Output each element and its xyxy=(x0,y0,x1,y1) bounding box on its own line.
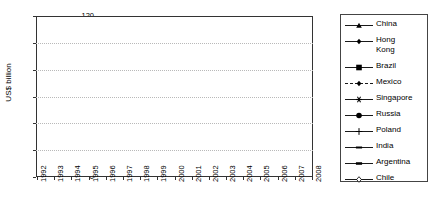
legend-marker-circle-icon xyxy=(344,110,374,121)
x-tick-label: 1994 xyxy=(74,165,82,182)
y-axis-title: US$ billion xyxy=(4,33,13,133)
marker-square xyxy=(356,65,362,71)
legend-marker-square-icon xyxy=(344,62,374,73)
x-tick-label: 2007 xyxy=(298,165,306,182)
gridline xyxy=(36,43,313,44)
x-tick-label: 1993 xyxy=(57,165,65,182)
legend-marker-bar-icon xyxy=(344,158,374,169)
legend-label: Hong Kong xyxy=(374,35,395,55)
x-tick-label: 1997 xyxy=(126,165,134,182)
legend-marker-diamond-icon xyxy=(344,78,374,89)
x-tick-mark xyxy=(278,177,279,180)
legend-label: Singapore xyxy=(374,93,412,103)
legend-item-poland[interactable]: Poland xyxy=(344,125,424,140)
legend-label: Mexico xyxy=(374,77,401,87)
y-tick-mark xyxy=(33,177,36,178)
legend-item-china[interactable]: China xyxy=(344,19,424,34)
legend-item-india[interactable]: India xyxy=(344,141,424,156)
x-tick-label: 2002 xyxy=(212,165,220,182)
legend-label: Russia xyxy=(374,109,400,119)
x-tick-mark xyxy=(192,177,193,180)
plot-area xyxy=(36,16,313,177)
legend-label: India xyxy=(374,141,393,151)
x-tick-label: 1999 xyxy=(160,165,168,182)
x-tick-label: 2008 xyxy=(315,165,323,182)
x-tick-mark xyxy=(175,177,176,180)
x-tick-label: 2000 xyxy=(178,165,186,182)
marker-circle xyxy=(356,113,362,119)
x-tick-mark xyxy=(89,177,90,180)
x-tick-mark xyxy=(140,177,141,180)
gridline xyxy=(36,123,313,124)
x-tick-mark xyxy=(295,177,296,180)
marker-dash xyxy=(356,147,362,149)
x-tick-mark xyxy=(209,177,210,180)
legend-marker-asterisk-icon xyxy=(344,94,374,105)
legend: ChinaHong KongBrazilMexicoSingaporeRussi… xyxy=(340,14,428,182)
gridline xyxy=(36,150,313,151)
legend-marker-triangle-icon xyxy=(344,20,374,31)
x-tick-mark xyxy=(226,177,227,180)
marker-asterisk xyxy=(356,97,362,102)
legend-item-chile[interactable]: Chile xyxy=(344,173,424,188)
legend-label: Chile xyxy=(374,173,394,183)
x-tick-mark xyxy=(37,177,38,180)
legend-item-mexico[interactable]: Mexico xyxy=(344,77,424,92)
legend-label: China xyxy=(374,19,397,29)
legend-item-singapore[interactable]: Singapore xyxy=(344,93,424,108)
legend-marker-open-diamond-icon xyxy=(344,174,374,185)
x-tick-mark xyxy=(312,177,313,180)
x-tick-label: 1992 xyxy=(40,165,48,182)
legend-item-hong-kong[interactable]: Hong Kong xyxy=(344,35,424,60)
x-tick-label: 2001 xyxy=(195,165,203,182)
x-tick-label: 1998 xyxy=(143,165,151,182)
gridline xyxy=(36,97,313,98)
legend-label: Argentina xyxy=(374,157,410,167)
x-tick-label: 1995 xyxy=(92,165,100,182)
legend-marker-plus-icon xyxy=(344,126,374,137)
x-tick-label: 2005 xyxy=(263,165,271,182)
legend-label: Poland xyxy=(374,125,401,135)
chart-figure: US$ billion 020406080100120 199219931994… xyxy=(0,0,433,223)
x-tick-mark xyxy=(106,177,107,180)
legend-item-brazil[interactable]: Brazil xyxy=(344,61,424,76)
legend-marker-diamond-icon xyxy=(344,36,374,47)
x-tick-label: 2003 xyxy=(229,165,237,182)
marker-diamond xyxy=(357,39,362,45)
x-tick-mark xyxy=(123,177,124,180)
marker-plus xyxy=(356,128,363,135)
legend-item-russia[interactable]: Russia xyxy=(344,109,424,124)
marker-open-diamond xyxy=(357,177,362,183)
x-tick-label: 2006 xyxy=(281,165,289,182)
marker-bar xyxy=(356,162,362,165)
y-axis: US$ billion xyxy=(0,0,14,177)
marker-diamond xyxy=(357,81,362,87)
x-tick-label: 1996 xyxy=(109,165,117,182)
x-tick-label: 2004 xyxy=(246,165,254,182)
legend-marker-dash-icon xyxy=(344,142,374,153)
gridline xyxy=(36,70,313,71)
legend-item-argentina[interactable]: Argentina xyxy=(344,157,424,172)
legend-label: Brazil xyxy=(374,61,396,71)
